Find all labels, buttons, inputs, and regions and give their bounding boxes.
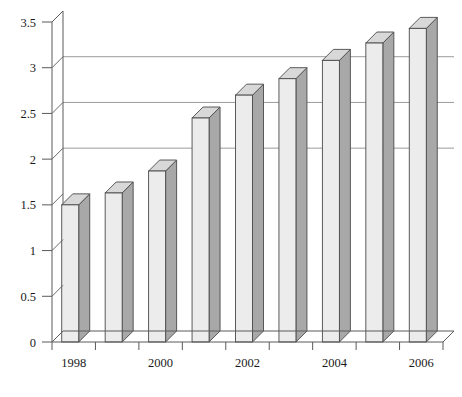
y-axis-tick-label: 3.5 <box>20 16 36 30</box>
y-axis-tick-label: 0.5 <box>20 290 36 304</box>
bar-column[interactable] <box>192 107 220 342</box>
bar-front-face <box>105 193 122 342</box>
bar-column[interactable] <box>149 160 177 342</box>
bar-chart: 00.511.522.533.519982000200220042006 <box>0 0 462 397</box>
bar-front-face <box>149 171 166 342</box>
x-axis-tick-label: 2002 <box>235 356 260 370</box>
bar-column[interactable] <box>105 182 133 342</box>
bar-front-face <box>236 95 253 342</box>
bar-column[interactable] <box>279 68 307 342</box>
x-axis-tick-label: 2004 <box>322 356 348 370</box>
bar-side-face <box>426 17 437 342</box>
bar-side-face <box>209 107 220 342</box>
x-axis: 19982000200220042006 <box>52 342 443 370</box>
y-axis: 00.511.522.533.5 <box>20 11 63 350</box>
bar-column[interactable] <box>62 194 90 342</box>
bar-side-face <box>339 49 350 342</box>
y-axis-tick-label: 1.5 <box>20 198 36 212</box>
bar-column[interactable] <box>236 84 264 342</box>
bars <box>62 17 438 342</box>
bar-side-face <box>253 84 264 342</box>
y-axis-tick-label: 2 <box>30 153 36 167</box>
y-axis-tick-label: 2.5 <box>20 107 36 121</box>
bar-side-face <box>383 32 394 342</box>
bar-side-face <box>296 68 307 342</box>
bar-column[interactable] <box>322 49 350 342</box>
y-axis-tick-depth <box>52 11 63 22</box>
y-axis-tick-depth <box>52 148 63 159</box>
y-axis-tick-label: 1 <box>30 244 36 258</box>
bar-front-face <box>279 79 296 342</box>
y-axis-tick-depth <box>52 102 63 113</box>
bar-side-face <box>79 194 90 342</box>
bar-column[interactable] <box>409 17 437 342</box>
x-axis-tick-label: 1998 <box>61 356 86 370</box>
bar-front-face <box>192 118 209 342</box>
bar-side-face <box>122 182 133 342</box>
y-axis-tick-depth <box>52 194 63 205</box>
bar-front-face <box>62 205 79 342</box>
y-axis-tick-label: 0 <box>30 336 36 350</box>
x-axis-right-connector <box>443 331 454 342</box>
bar-column[interactable] <box>366 32 394 342</box>
x-axis-tick-label: 2000 <box>148 356 173 370</box>
bar-side-face <box>166 160 177 342</box>
y-axis-tick-label: 3 <box>30 61 36 75</box>
y-axis-tick-depth <box>52 57 63 68</box>
x-axis-tick-label: 2006 <box>409 356 434 370</box>
chart-canvas: 00.511.522.533.519982000200220042006 <box>0 0 462 397</box>
bar-front-face <box>322 60 339 342</box>
bar-front-face <box>366 43 383 342</box>
bar-front-face <box>409 28 426 342</box>
